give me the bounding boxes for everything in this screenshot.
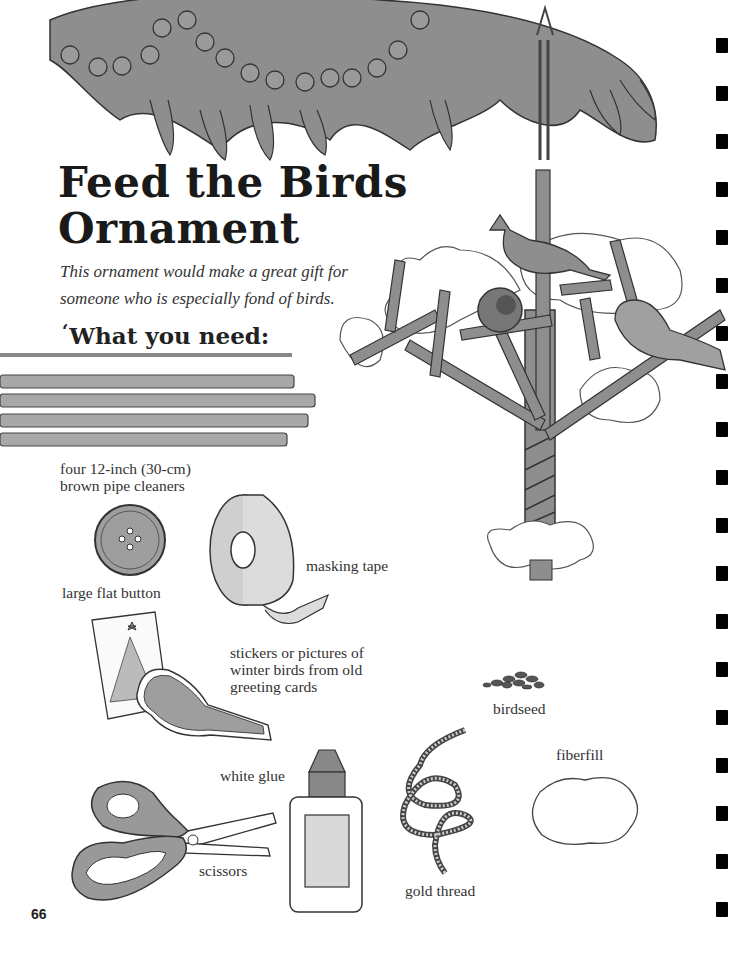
scissors-label: scissors bbox=[199, 862, 247, 879]
stickers-label: stickers or pictures of winter birds fro… bbox=[230, 644, 364, 695]
intro-text: This ornament would make a great gift fo… bbox=[60, 258, 380, 312]
intro-line-1: This ornament would make a great gift fo… bbox=[60, 258, 380, 285]
birdseed-icon bbox=[477, 665, 552, 695]
white-glue-icon bbox=[287, 745, 367, 915]
intro-line-2: someone who is especially fond of birds. bbox=[60, 285, 380, 312]
label-line: winter birds from old bbox=[230, 661, 364, 678]
binding-hole bbox=[716, 134, 728, 149]
binding-hole bbox=[716, 854, 728, 869]
button-icon bbox=[93, 503, 167, 577]
bird-icon bbox=[615, 300, 725, 370]
title-line-2: Ornament bbox=[58, 206, 408, 252]
button-label: large flat button bbox=[62, 584, 161, 601]
fiberfill-icon bbox=[525, 772, 640, 847]
label-line: brown pipe cleaners bbox=[60, 477, 191, 494]
binding-hole bbox=[716, 710, 728, 725]
page-title: Feed the Birds Ornament bbox=[58, 160, 408, 252]
page-number: 66 bbox=[31, 906, 47, 922]
masking-tape-label: masking tape bbox=[306, 557, 388, 574]
binding-hole bbox=[716, 806, 728, 821]
birdseed-label: birdseed bbox=[493, 700, 546, 717]
heading-curl: ‘ bbox=[62, 321, 68, 342]
binding-hole bbox=[716, 614, 728, 629]
title-line-1: Feed the Birds bbox=[58, 160, 408, 206]
binding-hole bbox=[716, 662, 728, 677]
binding-hole bbox=[716, 38, 728, 53]
section-divider bbox=[0, 353, 292, 357]
scissors-icon bbox=[68, 778, 278, 908]
binding-hole bbox=[716, 86, 728, 101]
pipe-cleaners-label: four 12-inch (30-cm) brown pipe cleaners bbox=[60, 460, 191, 494]
label-line: greeting cards bbox=[230, 678, 364, 695]
binding-hole bbox=[716, 902, 728, 917]
fiberfill-label: fiberfill bbox=[556, 746, 603, 763]
label-line: stickers or pictures of bbox=[230, 644, 364, 661]
pipe-cleaners-illustration bbox=[0, 372, 320, 447]
binding-hole bbox=[716, 758, 728, 773]
label-line: four 12-inch (30-cm) bbox=[60, 460, 191, 477]
gold-thread-icon bbox=[385, 725, 495, 880]
section-heading-text: What you need: bbox=[69, 322, 269, 349]
gold-thread-label: gold thread bbox=[405, 882, 475, 899]
section-heading: ‘What you need: bbox=[62, 322, 269, 349]
